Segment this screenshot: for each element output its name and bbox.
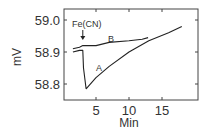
- y-tick-label: 58.8: [35, 77, 60, 92]
- series-line-a: [73, 26, 182, 88]
- line-chart: 58.858.959.0 51015 Fe(CN)AB mV Min: [0, 0, 207, 138]
- x-axis-ticks: 51015: [92, 9, 169, 118]
- y-axis-ticks: 58.858.959.0: [35, 13, 198, 92]
- data-series: [73, 26, 182, 88]
- arrow-head-icon: [80, 36, 85, 40]
- x-tick-label: 5: [92, 103, 99, 118]
- y-tick-label: 59.0: [35, 13, 60, 28]
- annotation-label: B: [108, 34, 114, 44]
- annotation-label: A: [96, 63, 102, 73]
- annotation-label: Fe(CN): [72, 19, 102, 29]
- x-tick-label: 15: [155, 103, 169, 118]
- y-tick-label: 58.9: [35, 45, 60, 60]
- x-axis-label: Min: [119, 116, 138, 130]
- y-axis-label: mV: [10, 48, 24, 66]
